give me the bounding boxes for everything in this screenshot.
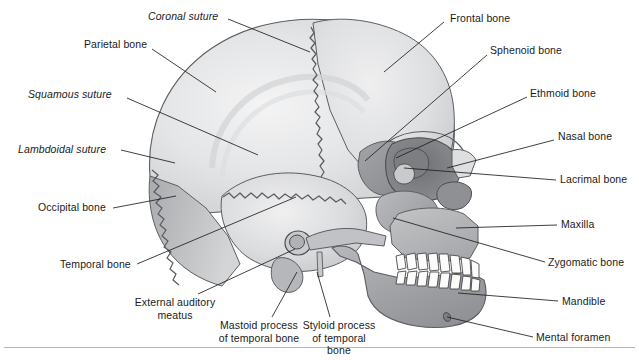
callout-label-coronal-suture: Coronal suture	[148, 10, 218, 23]
lacrimal-bone-shape	[394, 164, 415, 184]
callout-label-maxilla: Maxilla	[561, 218, 594, 231]
callout-label-frontal-bone: Frontal bone	[450, 12, 510, 25]
callout-label-lacrimal-bone: Lacrimal bone	[560, 173, 627, 186]
callout-label-occipital-bone: Occipital bone	[38, 201, 106, 214]
skull-diagram-figure: Coronal sutureParietal boneSquamous sutu…	[0, 0, 639, 360]
callout-label-nasal-bone: Nasal bone	[558, 130, 612, 143]
callout-label-zygomatic-bone: Zygomatic bone	[548, 256, 624, 269]
nasal-aperture-shape	[437, 182, 472, 210]
callout-label-ethmoid-bone: Ethmoid bone	[530, 87, 596, 100]
leader-line-mental-foramen	[447, 317, 533, 337]
styloid-process-shape	[317, 252, 323, 277]
callout-label-squamous-suture: Squamous suture	[28, 88, 112, 101]
callout-label-mastoid-process: Mastoid process of temporal bone	[218, 319, 300, 344]
callout-label-mandible: Mandible	[562, 295, 605, 308]
callout-label-sphenoid-bone: Sphenoid bone	[490, 44, 562, 57]
callout-label-styloid-process: Styloid process of temporal bone	[299, 319, 379, 357]
callout-label-parietal-bone: Parietal bone	[84, 38, 147, 51]
leader-line-styloid-process	[317, 272, 330, 317]
callout-label-external-auditory-meatus: External auditory meatus	[127, 296, 223, 321]
callout-label-lambdoidal-suture: Lambdoidal suture	[18, 143, 106, 156]
callout-label-temporal-bone: Temporal bone	[60, 258, 131, 271]
callout-label-mental-foramen: Mental foramen	[536, 331, 610, 344]
